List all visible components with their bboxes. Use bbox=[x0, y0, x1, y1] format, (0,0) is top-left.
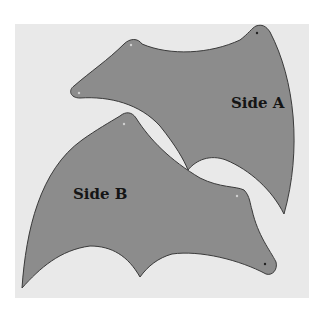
wing-pieces bbox=[0, 0, 324, 313]
side-a-label: Side A bbox=[231, 94, 284, 112]
side-b-label: Side B bbox=[73, 185, 127, 203]
